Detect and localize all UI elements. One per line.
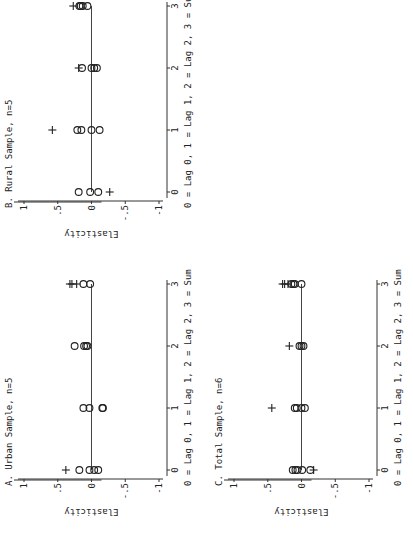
data-point-circle	[95, 189, 102, 196]
y-tick-label: -1	[364, 483, 374, 494]
x-tick-label: 0	[170, 467, 180, 472]
x-tick-label: 0	[170, 189, 180, 194]
data-point-circle	[87, 189, 94, 196]
data-point-circle	[78, 127, 85, 134]
x-tick-label: 1	[170, 405, 180, 410]
y-axis-title: Elasticity	[274, 507, 329, 517]
x-tick-label: 3	[170, 3, 180, 8]
data-point-plus	[285, 342, 293, 350]
x-tick-label: 1	[170, 127, 180, 132]
y-tick-label: .5	[53, 205, 63, 216]
y-tick-label: -1	[154, 205, 164, 216]
data-point-plus	[106, 188, 114, 196]
data-point-circle	[76, 467, 83, 474]
y-tick-label: .5	[53, 483, 63, 494]
x-axis-title: 0 = Lag 0, 1 = Lag 1, 2 = Lag 2, 3 = Sum	[183, 0, 193, 208]
data-point-plus	[62, 466, 70, 474]
y-tick-label: 0	[87, 483, 97, 488]
y-tick-label: -.5	[120, 205, 130, 221]
y-axis-title: Elasticity	[64, 507, 119, 517]
x-tick-label: 2	[170, 65, 180, 70]
y-tick-label: .5	[263, 483, 273, 494]
chart-total: C. Total Sample, n=61.50-.5-1Elasticity0…	[210, 238, 413, 488]
y-tick-label: -.5	[330, 483, 340, 499]
data-point-circle	[80, 281, 87, 288]
y-tick-label: -1	[154, 483, 164, 494]
panel-title: B. Rural Sample, n=5	[4, 100, 14, 208]
data-point-plus	[268, 404, 276, 412]
y-tick-label: 1	[19, 483, 29, 488]
y-tick-label: 0	[297, 483, 307, 488]
x-axis-title: 0 = Lag 0, 1 = Lag 1, 2 = Lag 2, 3 = Sum	[183, 269, 193, 486]
x-tick-label: 3	[170, 281, 180, 286]
y-tick-label: 1	[19, 205, 29, 210]
y-tick-label: -.5	[120, 483, 130, 499]
data-point-circle	[71, 343, 78, 350]
data-point-plus	[69, 2, 77, 10]
x-tick-label: 2	[380, 343, 390, 348]
x-tick-label: 0	[380, 467, 390, 472]
y-tick-label: 0	[87, 205, 97, 210]
panel-rural-sample: B. Rural Sample, n=51.50-.5-1Elasticity0…	[0, 0, 210, 210]
data-point-circle	[87, 281, 94, 288]
y-tick-label: 1	[229, 483, 239, 488]
data-point-circle	[96, 127, 103, 134]
data-point-plus	[48, 126, 56, 134]
data-point-circle	[95, 467, 102, 474]
chart-rural: B. Rural Sample, n=51.50-.5-1Elasticity0…	[0, 0, 210, 210]
panel-title: C. Total Sample, n=6	[214, 378, 224, 486]
panel-urban-sample: A. Urban Sample, n=51.50-.5-1Elasticity0…	[0, 238, 210, 488]
panel-title: A. Urban Sample, n=5	[4, 378, 14, 486]
x-tick-label: 3	[380, 281, 390, 286]
chart-urban: A. Urban Sample, n=51.50-.5-1Elasticity0…	[0, 238, 210, 488]
data-point-plus	[73, 280, 81, 288]
data-point-circle	[75, 189, 82, 196]
x-tick-label: 1	[380, 405, 390, 410]
x-tick-label: 2	[170, 343, 180, 348]
panel-total-sample: C. Total Sample, n=61.50-.5-1Elasticity0…	[210, 238, 413, 488]
data-point-circle	[299, 467, 306, 474]
data-point-circle	[84, 3, 91, 10]
x-axis-title: 0 = Lag 0, 1 = Lag 1, 2 = Lag 2, 3 = Sum	[393, 269, 403, 486]
